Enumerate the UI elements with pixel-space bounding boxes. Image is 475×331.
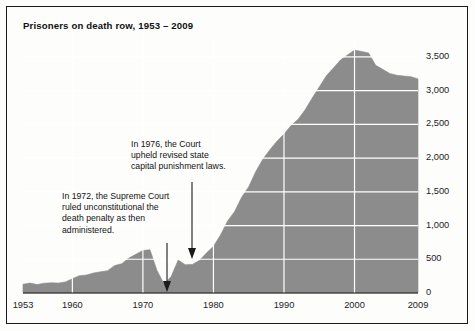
y-tick-label: 3,000 — [426, 85, 449, 95]
annotation-1976: In 1976, the Court upheld revised state … — [131, 139, 226, 173]
x-tick-label: 2000 — [332, 300, 378, 310]
y-tick-label: 0 — [426, 287, 431, 297]
x-tick-label: 1990 — [261, 300, 307, 310]
x-tick-label: 1960 — [49, 300, 95, 310]
y-tick-label: 2,500 — [426, 118, 449, 128]
x-tick-label: 1953 — [0, 300, 46, 310]
x-tick-label: 1970 — [120, 300, 166, 310]
y-tick-label: 2,000 — [426, 152, 449, 162]
chart-plot — [0, 0, 475, 331]
x-tick-label: 1980 — [190, 300, 236, 310]
arrow-1976 — [188, 182, 196, 259]
y-tick-label: 1,000 — [426, 220, 449, 230]
y-tick-label: 500 — [426, 253, 442, 263]
y-tick-label: 1,500 — [426, 186, 449, 196]
x-tick-label: 2009 — [395, 300, 441, 310]
annotation-1972: In 1972, the Supreme Court ruled unconst… — [62, 191, 169, 236]
y-tick-label: 3,500 — [426, 51, 449, 61]
figure-root: Prisoners on death row, 1953 – 2009 0500… — [0, 0, 475, 331]
